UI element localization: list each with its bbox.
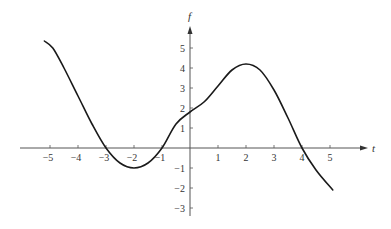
y-tick-label: −3 xyxy=(174,203,185,214)
x-tick-label: −5 xyxy=(43,152,54,163)
x-tick-label: 1 xyxy=(216,152,221,163)
y-tick-label: 1 xyxy=(180,123,185,134)
y-axis-label: f xyxy=(188,10,193,22)
x-axis-label: t xyxy=(372,142,376,154)
y-axis-ticks: 54321−1−2−3 xyxy=(174,43,193,214)
x-axis-arrow-icon xyxy=(360,146,368,151)
y-axis xyxy=(188,26,193,216)
y-tick-label: −2 xyxy=(174,183,185,194)
x-tick-label: −3 xyxy=(99,152,110,163)
x-axis xyxy=(20,146,368,151)
x-tick-label: −4 xyxy=(71,152,82,163)
curve-path xyxy=(44,41,332,190)
y-tick-label: 5 xyxy=(180,43,185,54)
x-tick-label: −2 xyxy=(127,152,138,163)
y-tick-label: 3 xyxy=(180,83,185,94)
x-tick-label: 3 xyxy=(272,152,277,163)
y-tick-label: −1 xyxy=(174,163,185,174)
y-tick-label: 2 xyxy=(180,103,185,114)
function-graph: −5−4−3−2−112345 54321−1−2−3 t f xyxy=(0,0,391,229)
y-axis-arrow-icon xyxy=(188,26,193,34)
x-tick-label: 5 xyxy=(328,152,333,163)
x-tick-label: −1 xyxy=(155,152,166,163)
x-tick-label: 4 xyxy=(300,152,305,163)
y-tick-label: 4 xyxy=(180,63,185,74)
function-curve xyxy=(44,41,332,190)
x-tick-label: 2 xyxy=(244,152,249,163)
